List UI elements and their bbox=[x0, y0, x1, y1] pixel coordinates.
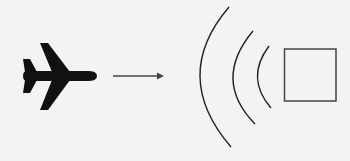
wave-arcs bbox=[200, 7, 271, 147]
airplane-icon bbox=[23, 43, 97, 110]
wave-arc-outer bbox=[200, 7, 231, 147]
diagram-canvas bbox=[0, 0, 350, 161]
arrow-right-icon bbox=[113, 73, 164, 80]
wave-arc-middle bbox=[233, 31, 255, 124]
target-square bbox=[285, 49, 337, 101]
wave-arc-inner bbox=[257, 46, 271, 108]
